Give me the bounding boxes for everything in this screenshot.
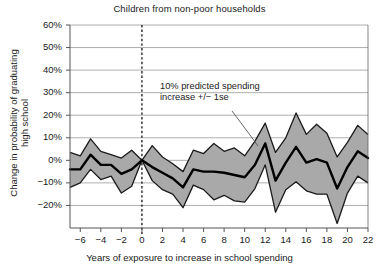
annotation-leader-line: [232, 111, 258, 146]
y-tick-label-20: 20%: [22, 109, 62, 120]
annotation-line1: 10% predicted spending: [160, 81, 260, 91]
chart-figure: Children from non-poor households Change…: [0, 0, 379, 274]
leader-line: [232, 111, 258, 146]
annotation-text: 10% predicted spending increase +/− 1se: [160, 81, 300, 104]
y-tick-label-40: 40%: [22, 64, 62, 75]
y-tick-label-60: 60%: [22, 19, 62, 30]
y-tick-label--20: −20%: [22, 199, 62, 210]
y-tick-label-30: 30%: [22, 86, 62, 97]
y-tick-label-10: 10%: [22, 131, 62, 142]
y-tick-label-0: 0%: [22, 154, 62, 165]
tick-marks: [66, 25, 368, 232]
x-tick-label-22: 22: [355, 234, 379, 245]
annotation-line2: increase +/− 1se: [160, 92, 229, 102]
y-tick-label-50: 50%: [22, 41, 62, 52]
y-tick-label--10: −10%: [22, 176, 62, 187]
